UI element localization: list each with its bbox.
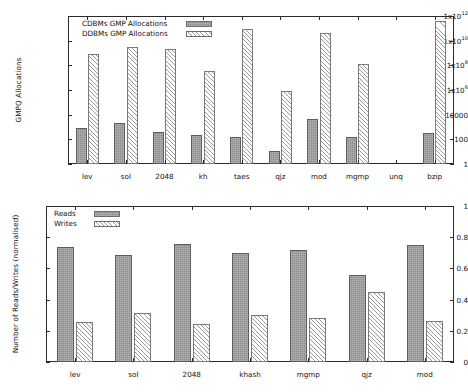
x-axis-tick-mark-top [358,16,359,20]
y-axis-tick-mark-right [450,362,454,363]
x-axis-tick-mark [308,358,309,362]
x-axis-tick-label: khash [239,370,260,379]
bar [309,318,326,362]
bar [407,245,424,362]
x-axis-tick-mark [133,358,134,362]
x-axis-tick-mark [280,160,281,164]
x-axis-tick-label: qjz [361,370,371,379]
y-axis-tick-mark-right [450,115,454,116]
x-axis-tick-mark [358,160,359,164]
x-axis-tick-label: kh [199,172,208,181]
legend-label: DDBMs GMP Allocations [82,29,168,39]
x-axis-tick-mark [75,358,76,362]
x-axis-tick-label: mod [417,370,433,379]
x-axis-tick-mark [165,160,166,164]
y-axis-tick-label: 1x1012 [407,12,468,21]
x-axis-tick-label: sol [121,172,131,181]
y-axis-tick-mark [68,115,72,116]
bar [281,91,292,164]
y-axis-tick-label: 1 [429,202,468,211]
bar [423,133,434,164]
x-axis-tick-label: lev [82,172,93,181]
bar [368,292,385,362]
y-axis-tick-mark-right [450,65,454,66]
x-axis-tick-mark [203,160,204,164]
bar [153,132,164,164]
bar [174,244,191,362]
y-axis-tick-mark-right [450,41,454,42]
bar [242,29,253,164]
legend-label: CDBMs GMP Allocations [82,19,167,29]
x-axis-tick-mark-top [133,206,134,210]
y-axis-title: GMPQ Allocations [14,58,23,123]
figure-two-bar-charts: 1100100001x1061x1081x10101x1012GMPQ Allo… [0,0,468,392]
y-axis-tick-mark [46,237,50,238]
x-axis-tick-label: bzip [427,172,442,181]
x-axis-tick-label: 2048 [155,172,173,181]
x-axis-tick-mark [367,358,368,362]
bar [349,275,366,362]
y-axis-tick-mark [46,268,50,269]
bar [251,315,268,362]
legend-swatch [186,31,212,37]
chart-reads-writes: 00.20.40.60.81Number of Reads/Writes (no… [0,196,468,392]
y-axis-tick-mark-right [450,237,454,238]
x-axis-tick-mark-top [319,16,320,20]
bar [232,253,249,362]
bar [88,54,99,164]
y-axis-tick-mark [46,300,50,301]
bar [114,123,125,164]
y-axis-tick-mark-right [450,164,454,165]
y-axis-tick-mark [46,331,50,332]
y-axis-tick-label: 0.8 [429,233,468,242]
x-axis-tick-mark-top [396,16,397,20]
x-axis-tick-mark-top [250,206,251,210]
y-axis-tick-label: 0.6 [429,264,468,273]
x-axis-tick-mark [425,358,426,362]
bar [76,322,93,362]
y-axis-tick-mark-right [450,268,454,269]
x-axis-tick-label: mgmp [346,172,369,181]
y-axis-tick-label: 0.4 [429,295,468,304]
bar [358,64,369,164]
plot-area [46,206,454,362]
x-axis-tick-label: lev [70,370,81,379]
y-axis-tick-mark-right [450,16,454,17]
x-axis-tick-label: 2048 [183,370,201,379]
bar [134,313,151,362]
y-axis-tick-mark-right [450,331,454,332]
x-axis-tick-mark-top [435,16,436,20]
x-axis-tick-mark [396,160,397,164]
bar [165,49,176,164]
y-axis-tick-mark [68,65,72,66]
x-axis-tick-label: mod [311,172,327,181]
x-axis-tick-mark [87,160,88,164]
bar [127,47,138,164]
x-axis-tick-label: sol [128,370,138,379]
x-axis-tick-mark-top [192,206,193,210]
bar [307,119,318,164]
x-axis-tick-mark-top [308,206,309,210]
bar [191,135,202,164]
y-axis-tick-mark [46,362,50,363]
y-axis-tick-mark-right [450,90,454,91]
legend-label: Reads [54,209,76,219]
x-axis-tick-mark [242,160,243,164]
bar [435,21,446,164]
y-axis-tick-mark-right [450,206,454,207]
y-axis-tick-mark-right [450,139,454,140]
y-axis-tick-mark [68,90,72,91]
legend-label: Writes [54,219,77,229]
x-axis-tick-mark [435,160,436,164]
bar [230,137,241,164]
x-axis-tick-label: taes [234,172,249,181]
y-axis-tick-mark-right [450,300,454,301]
x-axis-tick-label: unq [389,172,403,181]
y-axis-tick-mark [68,164,72,165]
bar [320,33,331,164]
legend-swatch [186,21,212,27]
bar [76,128,87,164]
x-axis-tick-mark-top [367,206,368,210]
y-axis-tick-mark [68,139,72,140]
bar [115,255,132,362]
